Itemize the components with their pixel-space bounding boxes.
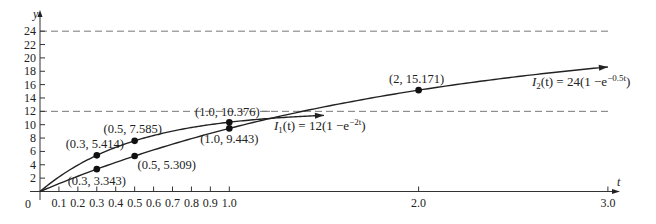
x-tick-label: 1.0 [222, 196, 237, 210]
function-labels: I1(t) = 12(1 −e−2t)I2(t) = 24(1 −e−0.5t) [273, 73, 630, 135]
curve-arrow-icon [599, 65, 608, 71]
data-point [131, 138, 138, 145]
x-tick-label: 0.7 [165, 196, 180, 210]
point-label: (0.5, 7.585) [103, 122, 161, 136]
x-tick-label: 0.5 [127, 196, 142, 210]
x-tick-label: 0.1 [51, 196, 66, 210]
y-tick-label: 6 [30, 144, 36, 158]
x-axis-title: t [617, 175, 621, 189]
y-axis-title: y [32, 7, 39, 21]
current-curves-chart: yt0 246810121416182022240.10.20.30.40.50… [0, 0, 656, 224]
i2-function-label: I2(t) = 24(1 −e−0.5t) [531, 73, 630, 91]
x-tick-label: 0.6 [146, 196, 161, 210]
y-tick-label: 12 [24, 104, 36, 118]
origin-label: 0 [25, 197, 31, 211]
point-label: (2, 15.171) [389, 72, 444, 86]
data-point [226, 119, 233, 126]
x-tick-label: 3.0 [600, 196, 615, 210]
point-label: (0.3, 3.343) [68, 174, 126, 188]
data-point [226, 125, 233, 132]
asymptote-lines [40, 31, 608, 111]
x-axis-arrow-icon [612, 189, 620, 194]
data-point [93, 152, 100, 159]
y-tick-label: 14 [24, 91, 36, 105]
data-point [415, 87, 422, 94]
point-label: (0.3, 5.414) [66, 137, 124, 151]
x-tick-label: 2.0 [411, 196, 426, 210]
point-labels: (0.3, 5.414)(0.5, 7.585)(1.0, 10.376)(0.… [66, 72, 445, 188]
x-tick-label: 0.4 [108, 196, 123, 210]
y-tick-label: 2 [30, 171, 36, 185]
i1-function-label: I1(t) = 12(1 −e−2t) [273, 117, 366, 135]
y-tick-label: 16 [24, 78, 36, 92]
y-tick-label: 20 [24, 51, 36, 65]
point-label: (1.0, 10.376) [195, 105, 260, 119]
y-tick-label: 24 [24, 24, 36, 38]
data-point [93, 166, 100, 173]
point-label: (1.0, 9.443) [200, 132, 258, 146]
x-tick-label: 0.3 [89, 196, 104, 210]
x-tick-label: 0.9 [203, 196, 218, 210]
x-tick-label: 0.8 [184, 196, 199, 210]
y-tick-label: 18 [24, 64, 36, 78]
x-tick-label: 0.2 [70, 196, 85, 210]
y-tick-label: 22 [24, 38, 36, 52]
y-tick-label: 4 [30, 158, 36, 172]
y-tick-label: 8 [30, 131, 36, 145]
point-label: (0.5, 5.309) [137, 158, 195, 172]
y-tick-label: 10 [24, 118, 36, 132]
